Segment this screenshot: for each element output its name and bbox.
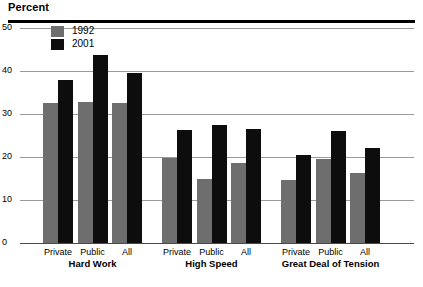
plot-area — [28, 28, 414, 243]
bar-1992-great-deal-of-tension-public — [316, 159, 331, 243]
y-tick-mark — [20, 243, 29, 244]
x-axis-tick-label: All — [335, 247, 395, 257]
y-tick-mark — [20, 157, 29, 158]
y-tick-mark — [20, 200, 29, 201]
bar-2001-great-deal-of-tension-all — [365, 148, 380, 243]
bar-2001-hard-work-public — [93, 55, 108, 243]
bar-2001-hard-work-all — [127, 73, 142, 243]
legend-label-2001: 2001 — [72, 38, 94, 50]
gridline — [28, 71, 414, 72]
chart-title: Percent — [8, 1, 49, 13]
legend-label-1992: 1992 — [72, 25, 94, 37]
bar-1992-great-deal-of-tension-private — [281, 180, 296, 243]
legend-swatch-2001 — [51, 39, 64, 50]
legend-swatch-1992 — [51, 26, 64, 37]
bar-2001-high-speed-all — [246, 129, 261, 243]
bar-1992-high-speed-private — [162, 158, 177, 243]
y-tick-mark — [20, 71, 29, 72]
bar-1992-hard-work-public — [78, 102, 93, 243]
bar-2001-great-deal-of-tension-private — [296, 155, 311, 243]
y-tick-mark — [20, 28, 29, 29]
y-axis-tick-label: 40 — [2, 66, 19, 75]
y-axis-tick-label: 50 — [2, 23, 19, 32]
bar-2001-high-speed-public — [212, 125, 227, 243]
y-axis-tick-label: 20 — [2, 152, 19, 161]
bar-1992-hard-work-all — [112, 103, 127, 243]
bar-1992-high-speed-all — [231, 163, 246, 243]
bar-2001-high-speed-private — [177, 130, 192, 243]
bar-chart: Percent 1992 2001 01020304050PrivatePubl… — [0, 0, 423, 287]
bar-2001-hard-work-private — [58, 80, 73, 243]
y-axis-tick-label: 0 — [2, 238, 19, 247]
bar-1992-high-speed-public — [197, 179, 212, 244]
x-axis-group-label: Great Deal of Tension — [261, 259, 401, 269]
y-axis-tick-label: 30 — [2, 109, 19, 118]
bar-1992-great-deal-of-tension-all — [350, 173, 365, 243]
y-tick-mark — [20, 114, 29, 115]
y-axis-tick-label: 10 — [2, 195, 19, 204]
header-rule — [8, 20, 415, 23]
bar-1992-hard-work-private — [43, 103, 58, 243]
bar-2001-great-deal-of-tension-public — [331, 131, 346, 243]
axis-baseline — [28, 243, 414, 244]
